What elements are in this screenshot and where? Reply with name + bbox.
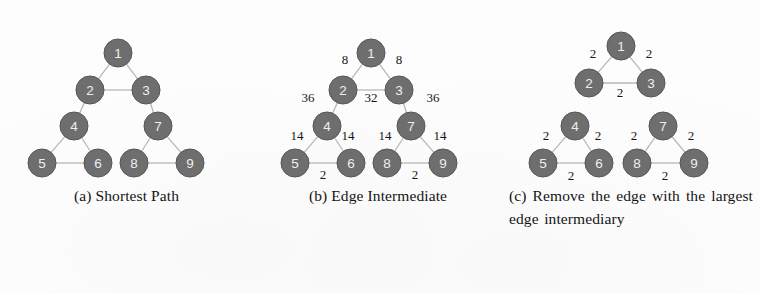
node-3[interactable]: 3 (132, 76, 160, 104)
node-label-1: 1 (617, 39, 625, 54)
edge-weight-2-4: 36 (302, 90, 316, 105)
node-8[interactable]: 8 (373, 149, 401, 177)
edge-weight-8-9: 2 (412, 167, 419, 182)
node-label-2: 2 (585, 76, 593, 91)
node-label-9: 9 (439, 156, 447, 171)
panel-edge-intermediate: 123475689883236361414214142 (b) Edge Int… (253, 0, 503, 293)
node-5[interactable]: 5 (28, 149, 56, 177)
graph-b-svg: 123475689883236361414214142 (253, 8, 503, 183)
edge-weight-7-9: 14 (434, 128, 448, 143)
edge-1-2 (98, 64, 109, 79)
edge-4-5 (304, 137, 318, 153)
edge-weight-2-3: 32 (365, 90, 378, 105)
node-label-1: 1 (114, 46, 122, 61)
edge-weight-1-2: 2 (590, 46, 597, 61)
caption-c: (c) Remove the edge with the largest edg… (509, 185, 753, 231)
graph-a-svg: 123475689 (0, 8, 253, 183)
node-2[interactable]: 2 (575, 69, 603, 97)
graph-c: 123475689222222222 (503, 8, 760, 183)
node-label-4: 4 (571, 119, 579, 134)
node-label-5: 5 (291, 156, 299, 171)
graph-b: 123475689883236361414214142 (253, 8, 503, 183)
node-1[interactable]: 1 (357, 39, 385, 67)
caption-a: (a) Shortest Path (0, 185, 253, 208)
node-label-6: 6 (595, 156, 603, 171)
node-label-9: 9 (186, 156, 194, 171)
edge-weight-2-3: 2 (617, 85, 624, 100)
node-label-7: 7 (154, 119, 162, 134)
edge-7-9 (167, 137, 181, 153)
edge-weight-5-6: 2 (320, 167, 327, 182)
node-6[interactable]: 6 (585, 149, 613, 177)
node-label-1: 1 (367, 46, 375, 61)
edge-7-8 (142, 138, 151, 152)
node-label-5: 5 (38, 156, 46, 171)
node-5[interactable]: 5 (529, 149, 557, 177)
edge-7-9 (672, 137, 685, 153)
edge-weight-1-3: 8 (396, 52, 403, 67)
edge-weight-7-8: 14 (379, 128, 393, 143)
node-label-3: 3 (647, 76, 655, 91)
node-label-2: 2 (339, 83, 347, 98)
edge-weight-7-9: 2 (688, 128, 695, 143)
node-2[interactable]: 2 (76, 76, 104, 104)
node-7[interactable]: 7 (397, 112, 425, 140)
panel-shortest-path: 123475689 (a) Shortest Path (0, 0, 253, 293)
edge-1-3 (126, 64, 137, 79)
node-7[interactable]: 7 (144, 112, 172, 140)
edge-4-6 (82, 138, 91, 152)
node-label-5: 5 (539, 156, 547, 171)
edge-7-8 (645, 137, 655, 151)
node-9[interactable]: 9 (176, 149, 204, 177)
node-label-9: 9 (690, 156, 698, 171)
node-8[interactable]: 8 (120, 149, 148, 177)
node-label-4: 4 (323, 119, 331, 134)
node-label-3: 3 (142, 83, 150, 98)
graph-a: 123475689 (0, 8, 253, 183)
node-label-7: 7 (659, 119, 667, 134)
node-3[interactable]: 3 (385, 76, 413, 104)
node-label-6: 6 (94, 156, 102, 171)
edge-1-3 (630, 57, 642, 72)
node-label-8: 8 (633, 156, 641, 171)
edge-weight-4-6: 2 (595, 128, 602, 143)
edge-2-4 (333, 103, 338, 113)
node-7[interactable]: 7 (649, 112, 677, 140)
node-4[interactable]: 4 (313, 112, 341, 140)
edge-3-7 (150, 103, 153, 112)
edge-weight-1-3: 2 (646, 46, 653, 61)
figure-container: 123475689 (a) Shortest Path 123475689883… (0, 0, 760, 293)
edge-4-5 (51, 137, 65, 153)
node-9[interactable]: 9 (429, 149, 457, 177)
node-2[interactable]: 2 (329, 76, 357, 104)
edge-weight-4-5: 2 (543, 128, 550, 143)
node-label-6: 6 (347, 156, 355, 171)
panel-remove-largest-edge: 123475689222222222 (c) Remove the edge w… (503, 0, 760, 293)
node-6[interactable]: 6 (84, 149, 112, 177)
node-label-8: 8 (130, 156, 138, 171)
edge-weight-3-7: 36 (427, 90, 441, 105)
graph-c-svg: 123475689222222222 (503, 8, 760, 183)
node-4[interactable]: 4 (561, 112, 589, 140)
node-4[interactable]: 4 (60, 112, 88, 140)
edge-1-3 (379, 64, 390, 79)
node-label-2: 2 (86, 83, 94, 98)
edge-4-6 (583, 138, 592, 152)
edge-1-2 (351, 64, 362, 79)
node-1[interactable]: 1 (104, 39, 132, 67)
node-label-3: 3 (395, 83, 403, 98)
caption-b: (b) Edge Intermediate (253, 185, 503, 208)
edge-weight-5-6: 2 (568, 168, 575, 183)
edge-7-9 (420, 137, 434, 153)
node-1[interactable]: 1 (607, 32, 635, 60)
node-6[interactable]: 6 (337, 149, 365, 177)
edge-weight-4-6: 14 (342, 128, 356, 143)
edge-2-4 (80, 103, 85, 113)
edge-weight-1-2: 8 (342, 52, 349, 67)
node-9[interactable]: 9 (680, 149, 708, 177)
node-3[interactable]: 3 (637, 69, 665, 97)
node-label-4: 4 (70, 119, 78, 134)
node-8[interactable]: 8 (623, 149, 651, 177)
edge-weight-4-5: 14 (291, 128, 305, 143)
node-5[interactable]: 5 (281, 149, 309, 177)
